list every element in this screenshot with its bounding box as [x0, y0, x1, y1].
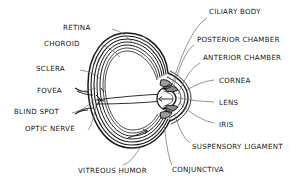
label-retina: RETINA	[63, 24, 91, 31]
leader-line-iris	[180, 103, 214, 123]
label-sclera: SCLERA	[36, 65, 65, 72]
fovea-notch	[101, 88, 104, 92]
eye-globe-coats	[88, 33, 170, 148]
label-suspensory-ligament: SUSPENSORY LIGAMENT	[192, 143, 283, 150]
label-posterior-chamber: POSTERIOR CHAMBER	[197, 36, 280, 43]
ciliary-body-upper	[160, 80, 172, 87]
leader-line-lens	[178, 98, 214, 102]
leader-line-optic-nerve	[88, 106, 96, 130]
label-lens: LENS	[219, 99, 238, 106]
label-optic-nerve: OPTIC NERVE	[25, 125, 75, 132]
label-anterior-chamber: ANTERIOR CHAMBER	[203, 54, 281, 61]
label-cornea: CORNEA	[219, 77, 251, 84]
label-ciliary-body: CILIARY BODY	[209, 8, 261, 15]
leader-line-cornea	[187, 80, 214, 90]
iris-lower-leaf	[166, 105, 178, 111]
label-vitreous-humor: VITREOUS HUMOR	[78, 167, 147, 174]
leader-line-vitreous-humor	[123, 146, 141, 165]
eye-diagram: RETINACHOROIDSCLERAFOVEABLIND SPOTOPTIC …	[0, 0, 302, 184]
label-blind-spot: BLIND SPOT	[14, 108, 59, 115]
label-conjunctiva: CONJUNCTIVA	[172, 166, 224, 173]
vitreous-humor-boundary	[105, 51, 158, 130]
label-choroid: CHOROID	[44, 40, 80, 47]
axis-lower-line	[96, 101, 163, 104]
label-iris: IRIS	[219, 121, 234, 128]
label-fovea: FOVEA	[37, 87, 62, 94]
